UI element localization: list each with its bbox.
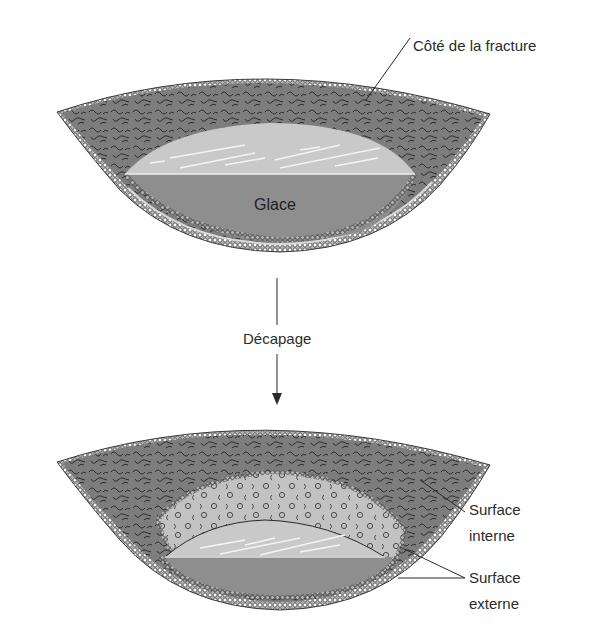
etching-label: Décapage <box>243 330 311 348</box>
inner-surface-label-line1: Surface <box>469 501 521 519</box>
arrow-head-icon <box>272 393 282 405</box>
outer-surface-label-line2: externe <box>469 595 519 613</box>
outer-surface-label-line1: Surface <box>469 569 521 587</box>
inner-surface-label-line2: interne <box>469 527 515 545</box>
fracture-side-label: Côté de la fracture <box>413 37 536 55</box>
ice-label: Glace <box>254 196 296 214</box>
vesicle-after-etch <box>57 430 490 610</box>
vesicle-before-etch <box>57 79 490 252</box>
